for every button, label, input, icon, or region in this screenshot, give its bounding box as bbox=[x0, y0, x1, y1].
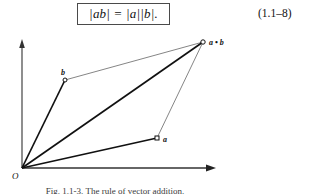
x-axis bbox=[22, 165, 216, 172]
origin-label: O bbox=[12, 171, 19, 181]
vertex-marker-b bbox=[63, 78, 67, 82]
equation-row: |ab| = |a||b|. (1.1–8) bbox=[0, 0, 315, 30]
x-axis-arrowhead bbox=[206, 165, 216, 172]
vertex-marker-a-plus-b bbox=[201, 40, 205, 44]
edge-a-to-apb bbox=[157, 42, 203, 138]
figure-caption: Fig. 1.1-3. The rule of vector addition. bbox=[0, 186, 230, 194]
vertex-marker-a bbox=[155, 136, 159, 140]
vector-o-to-b bbox=[22, 80, 65, 168]
vector-o-to-a-plus-b bbox=[22, 42, 203, 168]
figure-canvas: b a a • b O bbox=[0, 30, 315, 194]
equation-number: (1.1–8) bbox=[258, 7, 292, 19]
formula-box: |ab| = |a||b|. bbox=[77, 3, 170, 25]
edge-b-to-apb bbox=[65, 42, 203, 80]
vector-addition-figure: b a a • b O Fig. 1.1-3. The rule of vect… bbox=[0, 30, 315, 194]
y-axis bbox=[19, 39, 25, 168]
y-axis-arrowhead bbox=[19, 39, 25, 48]
point-label-a-plus-b: a • b bbox=[209, 38, 224, 47]
formula-text: |ab| = |a||b|. bbox=[89, 6, 158, 22]
point-label-a: a bbox=[163, 135, 167, 144]
vectors-from-origin bbox=[22, 42, 203, 168]
point-label-b: b bbox=[61, 68, 65, 77]
